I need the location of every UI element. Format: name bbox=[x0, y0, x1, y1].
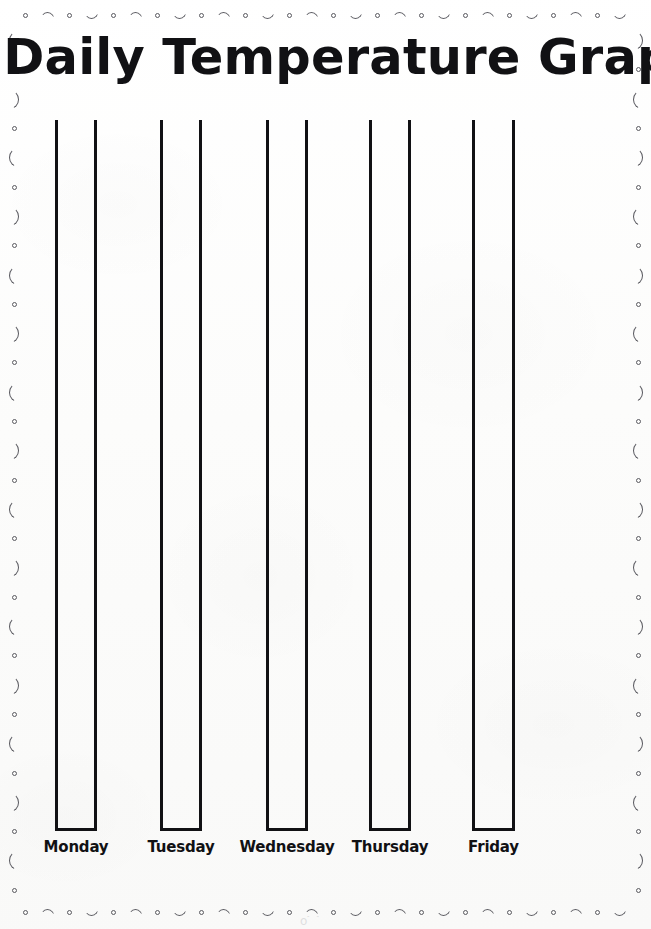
bar-outline bbox=[55, 120, 97, 831]
bar-outline bbox=[160, 120, 202, 831]
thermometer-bar-friday[interactable] bbox=[472, 120, 515, 831]
thermometer-bar-thursday[interactable] bbox=[369, 120, 411, 831]
day-label-thursday: Thursday bbox=[330, 838, 450, 856]
bar-outline bbox=[266, 120, 308, 831]
thermometer-chart: MondayTuesdayWednesdayThursdayFriday bbox=[0, 0, 651, 929]
day-label-tuesday: Tuesday bbox=[121, 838, 241, 856]
worksheet-page: Daily Temperature Graph MondayTuesdayWed… bbox=[0, 0, 651, 929]
bar-outline bbox=[369, 120, 411, 831]
day-label-friday: Friday bbox=[434, 838, 554, 856]
thermometer-bar-tuesday[interactable] bbox=[160, 120, 202, 831]
thermometer-bar-wednesday[interactable] bbox=[266, 120, 308, 831]
page-title: Daily Temperature Graph bbox=[3, 28, 647, 86]
day-label-wednesday: Wednesday bbox=[227, 838, 347, 856]
thermometer-bar-monday[interactable] bbox=[55, 120, 97, 831]
day-label-monday: Monday bbox=[16, 838, 136, 856]
bar-outline bbox=[472, 120, 515, 831]
